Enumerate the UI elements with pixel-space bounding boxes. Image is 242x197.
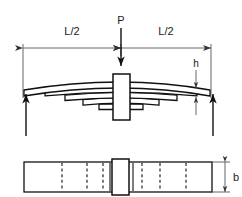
elevation-view xyxy=(24,74,213,136)
applied-load-group: P xyxy=(117,14,124,66)
label-half-span-right: L/2 xyxy=(158,25,173,37)
diagram-canvas: L/2 L/2 P h xyxy=(0,0,242,197)
label-half-span-left: L/2 xyxy=(64,25,79,37)
label-load: P xyxy=(117,14,124,26)
plan-view xyxy=(24,159,212,195)
label-height: h xyxy=(193,58,199,69)
center-clamp-plan xyxy=(112,159,129,195)
width-dimension-group: b xyxy=(212,162,239,192)
label-width: b xyxy=(233,171,239,183)
leaf-spring-diagram: L/2 L/2 P h xyxy=(0,0,242,197)
center-clamp-elevation xyxy=(113,74,130,120)
height-dimension-group: h xyxy=(193,58,199,115)
